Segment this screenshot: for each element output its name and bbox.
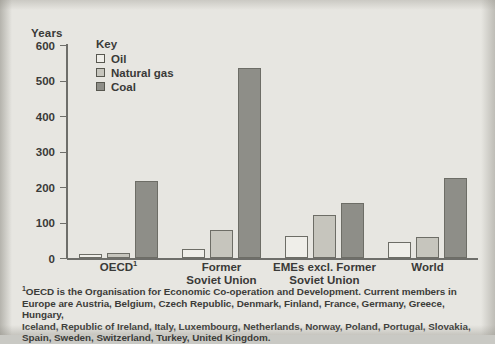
footnote-line: 1OECD is the Organisation for Economic C… xyxy=(22,286,477,298)
y-axis-tick: 500 xyxy=(60,81,67,82)
y-axis-tick: 300 xyxy=(60,152,67,153)
legend-swatch-icon xyxy=(96,54,105,63)
y-axis-tick: 0 xyxy=(60,258,67,259)
x-axis-label-line: Soviet Union xyxy=(186,274,256,287)
y-axis-tick-label: 100 xyxy=(36,217,55,229)
y-axis-tick-label: 200 xyxy=(36,182,55,194)
x-axis-label-line: Soviet Union xyxy=(273,274,376,287)
chart-legend: Key OilNatural gasCoal xyxy=(96,38,174,93)
bar-oil-oecd xyxy=(79,254,102,258)
footnote-marker: 1 xyxy=(133,259,137,268)
bar-coal-former-soviet-union xyxy=(238,68,261,258)
x-axis-label-former-soviet-union: FormerSoviet Union xyxy=(186,261,256,286)
bar-coal-oecd xyxy=(135,181,158,258)
legend-title: Key xyxy=(96,38,174,50)
footnote-marker: 1 xyxy=(22,285,26,292)
legend-item-coal: Coal xyxy=(96,80,174,93)
y-axis-tick-label: 0 xyxy=(49,253,55,265)
y-axis-tick: 200 xyxy=(60,187,67,188)
x-axis-label-world: World xyxy=(411,261,443,274)
legend-item-oil: Oil xyxy=(96,52,174,65)
y-axis-title: Years xyxy=(31,27,63,39)
x-axis-label-emes-excl-former-soviet-union: EMEs excl. FormerSoviet Union xyxy=(273,261,376,286)
footnote-line: Spain, Sweden, Switzerland, Turkey, Unit… xyxy=(22,332,477,344)
y-axis-tick: 100 xyxy=(60,223,67,224)
y-axis-tick-label: 600 xyxy=(36,40,55,52)
bar-coal-emes-excl-former-soviet-union xyxy=(341,203,364,258)
bar-oil-emes-excl-former-soviet-union xyxy=(285,236,308,258)
bar-natural-gas-emes-excl-former-soviet-union xyxy=(313,215,336,258)
x-axis-label-oecd: OECD1 xyxy=(100,261,137,274)
legend-item-label: Oil xyxy=(111,53,126,65)
footnote-line: Europe are Austria, Belgium, Czech Repub… xyxy=(22,298,477,321)
x-axis-label-line: Former xyxy=(186,261,256,274)
y-axis-tick: 600 xyxy=(60,45,67,46)
bar-chart: Years 6005004003002001000 Key OilNatural… xyxy=(0,0,495,282)
legend-rows: OilNatural gasCoal xyxy=(96,52,174,93)
legend-item-natural-gas: Natural gas xyxy=(96,66,174,79)
y-axis-tick-label: 400 xyxy=(36,111,55,123)
legend-item-label: Natural gas xyxy=(111,67,174,79)
y-axis-tick: 400 xyxy=(60,116,67,117)
footnote-line: Iceland, Republic of Ireland, Italy, Lux… xyxy=(22,321,477,333)
bar-oil-world xyxy=(388,242,411,258)
bar-natural-gas-oecd xyxy=(107,253,130,258)
x-axis-label-line: EMEs excl. Former xyxy=(273,261,376,274)
bar-oil-former-soviet-union xyxy=(182,249,205,258)
legend-swatch-icon xyxy=(96,82,105,91)
legend-item-label: Coal xyxy=(111,81,136,93)
bar-natural-gas-former-soviet-union xyxy=(210,230,233,258)
x-axis-line xyxy=(67,258,478,260)
x-axis-label-line: World xyxy=(411,261,443,274)
footnote: 1OECD is the Organisation for Economic C… xyxy=(22,286,477,344)
legend-swatch-icon xyxy=(96,68,105,77)
y-axis-tick-label: 500 xyxy=(36,75,55,87)
bar-coal-world xyxy=(444,178,467,258)
y-axis-tick-label: 300 xyxy=(36,146,55,158)
bar-natural-gas-world xyxy=(416,237,439,258)
